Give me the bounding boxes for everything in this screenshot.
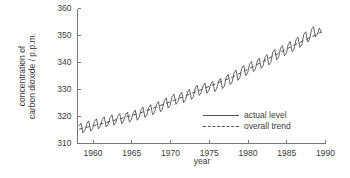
x-axis-label-text: year (194, 156, 211, 166)
y-axis-tick-label: 340 (46, 57, 72, 67)
y-axis-tick-label: 330 (46, 84, 72, 94)
y-axis-tick-label: 350 (46, 30, 72, 40)
y-axis-tick-label: 360 (46, 3, 72, 13)
co2-concentration-chart: concentration of carbon dioxide / p.p.m.… (0, 0, 350, 178)
legend-item-actual-level: actual level (203, 109, 291, 120)
legend-label-actual-level: actual level (244, 110, 287, 120)
legend-swatch-solid-line (203, 111, 239, 119)
y-axis-tick-label: 310 (46, 138, 72, 148)
legend-swatch-dashed-line (203, 122, 239, 130)
legend-label-overall-trend: overall trend (244, 121, 291, 131)
y-axis-tick-label: 320 (46, 111, 72, 121)
x-axis-label: year (0, 156, 350, 166)
chart-legend: actual level overall trend (203, 109, 291, 131)
legend-item-overall-trend: overall trend (203, 120, 291, 131)
